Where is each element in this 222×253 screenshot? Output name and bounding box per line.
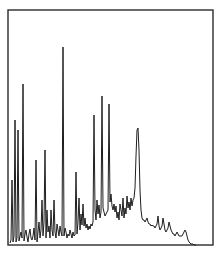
chromatogram-chart: [0, 0, 222, 253]
plot-frame: [8, 10, 213, 245]
signal-trace: [10, 47, 196, 245]
